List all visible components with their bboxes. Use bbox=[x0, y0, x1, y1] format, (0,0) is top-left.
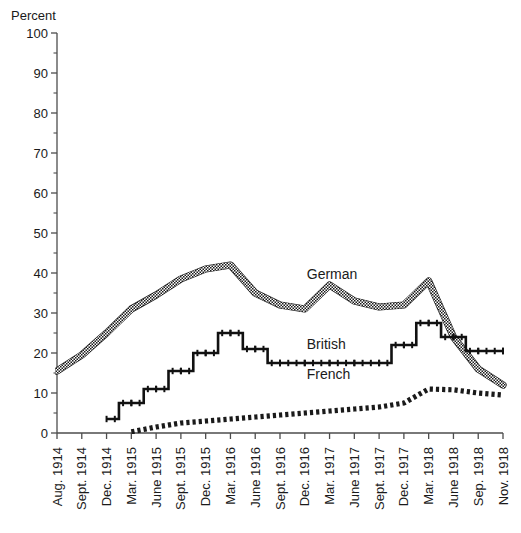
x-tick-label: June 1915 bbox=[149, 447, 164, 508]
series-label-french: French bbox=[307, 366, 351, 382]
x-tick-label: Nov. 1918 bbox=[496, 447, 511, 505]
x-tick-label: Dec. 1915 bbox=[198, 447, 213, 506]
y-tick-label: 10 bbox=[34, 386, 48, 401]
y-tick-label: 100 bbox=[26, 26, 48, 41]
y-tick-label: 50 bbox=[34, 226, 48, 241]
x-tick-label: Mar. 1917 bbox=[322, 447, 337, 505]
x-tick-label: Dec. 1916 bbox=[297, 447, 312, 506]
x-tick-label: Sep. 1918 bbox=[471, 447, 486, 506]
y-tick-label: 80 bbox=[34, 106, 48, 121]
line-chart: Percent 0102030405060708090100 Aug. 1914… bbox=[0, 0, 521, 533]
y-tick-label: 30 bbox=[34, 306, 48, 321]
x-tick-label: Aug. 1914 bbox=[50, 447, 65, 506]
chart-figure: Percent 0102030405060708090100 Aug. 1914… bbox=[0, 0, 521, 533]
series-label-british: British bbox=[307, 336, 346, 352]
x-tick-label: Dec. 1914 bbox=[99, 447, 114, 506]
series-label-german: German bbox=[307, 266, 358, 282]
x-tick-label: Sept. 1914 bbox=[74, 447, 89, 510]
x-tick-label: Dec. 1917 bbox=[396, 447, 411, 506]
x-tick-label: Mar. 1915 bbox=[124, 447, 139, 505]
y-tick-label: 60 bbox=[34, 186, 48, 201]
y-tick-label: 90 bbox=[34, 66, 48, 81]
x-tick-label: Mar. 1918 bbox=[421, 447, 436, 505]
y-tick-label: 20 bbox=[34, 346, 48, 361]
x-tick-label: Mar. 1916 bbox=[223, 447, 238, 505]
y-tick-label: 0 bbox=[41, 426, 48, 441]
x-tick-label: Sept. 1916 bbox=[273, 447, 288, 510]
x-tick-label: June 1918 bbox=[446, 447, 461, 508]
y-tick-label: 40 bbox=[34, 266, 48, 281]
x-tick-label: June 1917 bbox=[347, 447, 362, 508]
y-tick-label: 70 bbox=[34, 146, 48, 161]
x-tick-label: Sept. 1915 bbox=[173, 447, 188, 510]
y-axis-title: Percent bbox=[11, 8, 56, 23]
x-tick-label: June 1916 bbox=[248, 447, 263, 508]
x-tick-label: Sept. 1917 bbox=[372, 447, 387, 510]
